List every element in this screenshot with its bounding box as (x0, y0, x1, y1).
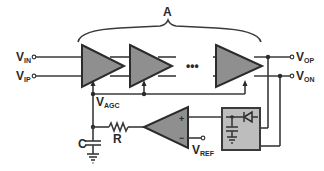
brace-label: A (163, 5, 172, 19)
junction-dot (278, 74, 282, 78)
amplifier-stage-n (216, 45, 262, 87)
vop-label: VOP (296, 50, 314, 64)
peak-detector-block (222, 108, 260, 150)
junction-dot (266, 55, 270, 59)
brace-a (78, 20, 261, 42)
vin-terminal[interactable] (32, 55, 36, 59)
comparator-minus: − (179, 133, 184, 143)
amplifier-stage-1 (82, 45, 124, 87)
junction-dot (142, 92, 146, 96)
vagc-label: VAGC (96, 95, 120, 109)
vref-label: VREF (192, 143, 215, 157)
capacitor-c (85, 127, 101, 154)
junction-dot (91, 92, 95, 96)
resistor-r (109, 123, 128, 131)
von-label: VON (296, 69, 315, 83)
capacitor-label: C (78, 137, 87, 151)
vip-terminal[interactable] (32, 74, 36, 78)
comparator-plus: + (179, 114, 184, 124)
vop-terminal[interactable] (290, 55, 294, 59)
ellipsis: ••• (186, 59, 199, 73)
agc-circuit-diagram: A VIN VIP ••• VOP VON (0, 0, 324, 171)
ground-icon (87, 154, 99, 163)
von-terminal[interactable] (290, 74, 294, 78)
vip-label: VIP (16, 69, 31, 83)
vin-label: VIN (16, 50, 31, 64)
resistor-label: R (113, 132, 122, 146)
amplifier-stage-2 (130, 45, 172, 87)
vref-terminal[interactable] (201, 136, 205, 140)
